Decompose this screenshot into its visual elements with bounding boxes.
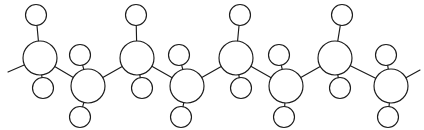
backbone-bond [102, 66, 123, 78]
pendant-atom [26, 5, 47, 26]
polymer-chain-diagram [0, 0, 424, 130]
terminal-bond [8, 64, 25, 72]
backbone-bond [250, 66, 272, 78]
backbone-atom [219, 41, 253, 75]
terminal-bond [405, 70, 420, 78]
backbone-atom [120, 41, 154, 75]
pendant-atom [70, 45, 91, 66]
backbone-atom [269, 69, 303, 103]
backbone-atom [170, 69, 204, 103]
terminal-bond-group [8, 64, 420, 78]
pendant-atom [70, 107, 91, 128]
pendant-atom [33, 78, 54, 99]
backbone-bond [151, 66, 173, 78]
backbone-bond [54, 66, 74, 78]
pendant-atom [126, 5, 147, 26]
pendant-atom [269, 45, 290, 66]
molecule-canvas [0, 0, 424, 130]
pendant-bond [237, 24, 239, 43]
pendant-atom [231, 78, 252, 99]
backbone-atom [71, 69, 105, 103]
backbone-bond [300, 66, 321, 78]
pendant-atom [274, 107, 295, 128]
pendant-atom [330, 78, 351, 99]
pendant-bond [37, 24, 39, 43]
backbone-atom [318, 41, 352, 75]
backbone-atom [374, 69, 408, 103]
backbone-bond [201, 66, 222, 78]
backbone-bond [349, 65, 376, 79]
pendant-atom [332, 5, 353, 26]
pendant-atom [171, 107, 192, 128]
pendant-atom [230, 5, 251, 26]
pendant-atom [132, 78, 153, 99]
pendant-atom [378, 107, 399, 128]
pendant-atom [376, 45, 397, 66]
pendant-bond [337, 24, 340, 43]
pendant-atom [169, 45, 190, 66]
backbone-atom [23, 41, 57, 75]
